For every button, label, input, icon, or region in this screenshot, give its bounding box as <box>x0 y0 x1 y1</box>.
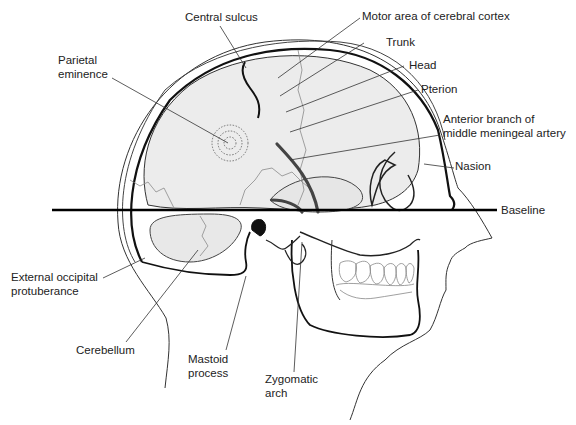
label-motor-area: Motor area of cerebral cortex <box>362 9 510 23</box>
label-trunk: Trunk <box>386 35 415 49</box>
label-text: Pterion <box>421 82 457 96</box>
label-text: Mastoid <box>188 352 228 366</box>
label-zygomatic-arch: Zygomatic arch <box>265 372 318 400</box>
label-pterion: Pterion <box>421 82 457 96</box>
face-profile <box>350 248 465 420</box>
teeth <box>336 261 414 299</box>
external-acoustic-meatus <box>252 219 266 236</box>
label-text: arch <box>265 386 318 400</box>
label-nasion: Nasion <box>455 159 491 173</box>
label-text: Anterior branch of <box>443 112 566 126</box>
cerebellum-shape <box>150 214 241 262</box>
label-head: Head <box>409 58 437 72</box>
label-central-sulcus: Central sulcus <box>185 10 258 24</box>
label-text: Nasion <box>455 159 491 173</box>
label-parietal-eminence: Parietal eminence <box>58 53 108 81</box>
label-text: Parietal <box>58 53 108 67</box>
label-text: Head <box>409 58 437 72</box>
maxilla <box>300 232 420 256</box>
label-text: Motor area of cerebral cortex <box>362 9 510 23</box>
label-text: Zygomatic <box>265 372 318 386</box>
label-text: Baseline <box>501 203 545 217</box>
mastoid-curve <box>266 236 300 249</box>
label-text: External occipital <box>11 270 98 284</box>
label-external-occipital-protuberance: External occipital protuberance <box>11 270 98 298</box>
label-text: protuberance <box>11 284 98 298</box>
label-anterior-branch-mma: Anterior branch of middle meningeal arte… <box>443 112 566 140</box>
label-text: Central sulcus <box>185 10 258 24</box>
label-mastoid-process: Mastoid process <box>188 352 228 380</box>
label-text: Cerebellum <box>76 343 135 357</box>
ramus <box>331 240 340 300</box>
label-text: process <box>188 366 228 380</box>
label-baseline: Baseline <box>501 203 545 217</box>
cerebrum <box>144 56 420 210</box>
label-cerebellum: Cerebellum <box>76 343 135 357</box>
label-text: Trunk <box>386 35 415 49</box>
label-text: eminence <box>58 67 108 81</box>
label-text: middle meningeal artery <box>443 126 566 140</box>
